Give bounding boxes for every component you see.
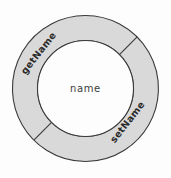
center-label: name: [70, 83, 101, 94]
encapsulation-ring-diagram: getName setName name: [0, 0, 171, 178]
ring-diagram-svg: getName setName name: [0, 0, 171, 178]
